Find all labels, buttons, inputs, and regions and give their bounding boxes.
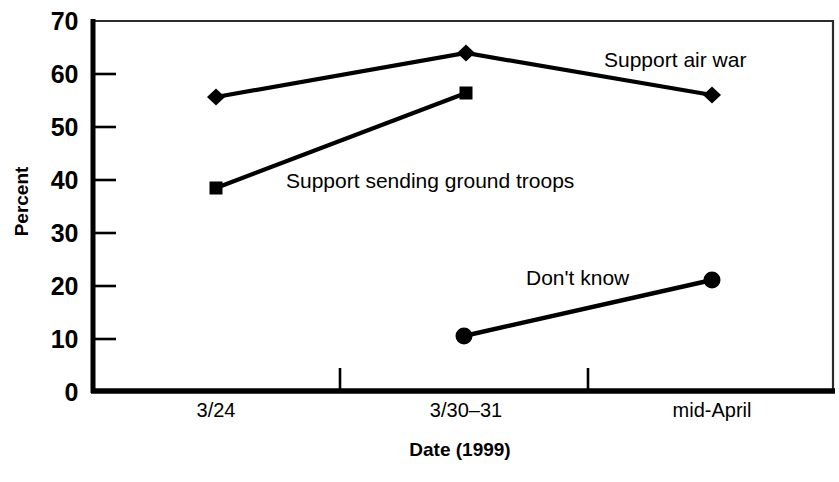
x-axis-ticks xyxy=(340,368,588,391)
x-axis-title: Date (1999) xyxy=(360,440,560,459)
y-tick-label-10: 10 xyxy=(20,327,78,352)
series-label-support-air-war: Support air war xyxy=(604,49,746,70)
y-tick-label-0: 0 xyxy=(20,380,78,405)
x-tick-label-0: 3/24 xyxy=(136,400,296,420)
marker-diamond xyxy=(703,87,721,104)
marker-circle xyxy=(704,272,721,289)
marker-square xyxy=(460,87,473,100)
x-tick-label-1: 3/30–31 xyxy=(386,400,546,420)
y-tick-label-20: 20 xyxy=(20,274,78,299)
chart-figure: 70 60 50 40 30 20 10 0 3/24 3/30–31 mid-… xyxy=(0,0,839,482)
y-tick-label-50: 50 xyxy=(20,115,78,140)
y-axis-ticks xyxy=(93,74,116,339)
marker-square xyxy=(210,182,223,195)
marker-diamond xyxy=(207,89,225,106)
x-tick-label-2: mid-April xyxy=(632,400,792,420)
series-label-support-sending-ground-troops: Support sending ground troops xyxy=(286,170,574,191)
y-tick-label-70: 70 xyxy=(20,9,78,34)
y-tick-label-60: 60 xyxy=(20,62,78,87)
marker-circle xyxy=(456,328,473,345)
marker-diamond xyxy=(457,45,475,62)
series-label-dont-know: Don't know xyxy=(526,267,629,288)
y-axis-title: Percent xyxy=(12,157,31,247)
